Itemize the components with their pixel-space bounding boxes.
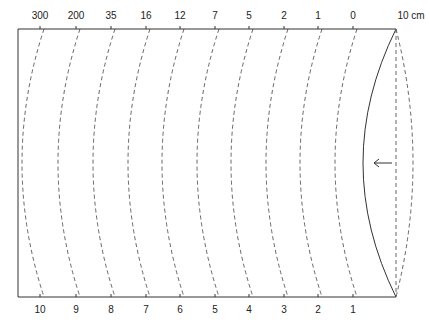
bottom-label: 4 — [246, 304, 252, 315]
top-label: 0 — [350, 10, 356, 21]
top-label: 200 — [68, 10, 85, 21]
bottom-label: 5 — [212, 304, 218, 315]
bottom-label: 9 — [73, 304, 79, 315]
top-label: 35 — [105, 10, 116, 21]
cylinder-diagram — [0, 0, 430, 326]
top-label: 300 — [32, 10, 49, 21]
bottom-label: 3 — [281, 304, 287, 315]
bottom-label: 8 — [108, 304, 114, 315]
bottom-label: 2 — [315, 304, 321, 315]
top-label: 1 — [315, 10, 321, 21]
bottom-label: 6 — [177, 304, 183, 315]
top-label: 7 — [212, 10, 218, 21]
top-label: 16 — [140, 10, 151, 21]
bottom-label: 1 — [350, 304, 356, 315]
end-label: 10 cm — [397, 10, 424, 21]
bottom-label: 10 — [34, 304, 45, 315]
bottom-label: 7 — [143, 304, 149, 315]
left-arrow-icon — [374, 159, 392, 167]
top-label: 2 — [281, 10, 287, 21]
top-label: 12 — [174, 10, 185, 21]
top-label: 5 — [246, 10, 252, 21]
